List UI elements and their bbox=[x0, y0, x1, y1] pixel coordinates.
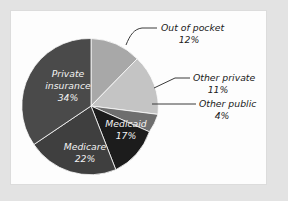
leader-line-out-of-pocket bbox=[126, 28, 157, 45]
pie-label-medicare: Medicare bbox=[64, 141, 107, 152]
pie-value-medicare: 22% bbox=[75, 153, 96, 164]
callout-label-other-public: Other public bbox=[199, 98, 256, 109]
pie-label-private-insurance-line2: insurance bbox=[45, 80, 91, 91]
callout-label-out-of-pocket: Out of pocket bbox=[161, 22, 225, 33]
callout-value-other-public: 4% bbox=[215, 110, 230, 121]
chart-figure: Out of pocket 12% Other private 11% Othe… bbox=[0, 0, 288, 201]
pie-chart: Out of pocket 12% Other private 11% Othe… bbox=[0, 0, 288, 201]
leader-line-other-private bbox=[154, 78, 190, 88]
callout-value-out-of-pocket: 12% bbox=[179, 34, 200, 45]
pie-label-medicaid: Medicaid bbox=[105, 118, 147, 129]
pie-value-private-insurance: 34% bbox=[58, 92, 79, 103]
callout-label-other-private: Other private bbox=[193, 72, 256, 83]
pie-label-private-insurance-line1: Private bbox=[52, 68, 85, 79]
callout-value-other-private: 11% bbox=[208, 84, 229, 95]
pie-value-medicaid: 17% bbox=[116, 130, 137, 141]
